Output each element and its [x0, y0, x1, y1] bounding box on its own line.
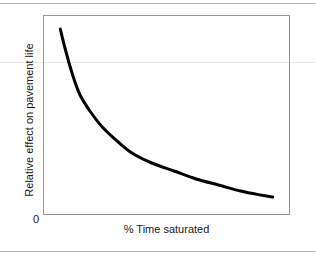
relative-effect-curve — [60, 29, 272, 197]
chart-figure: Relative effect on pavement life % Time … — [0, 0, 316, 257]
y-axis-label: Relative effect on pavement life — [22, 20, 36, 220]
origin-tick-label: 0 — [33, 213, 39, 225]
bottom-divider-rule — [0, 251, 316, 252]
x-axis-label: % Time saturated — [43, 223, 290, 235]
top-divider-rule — [0, 3, 316, 4]
decay-curve-plot — [43, 15, 290, 215]
